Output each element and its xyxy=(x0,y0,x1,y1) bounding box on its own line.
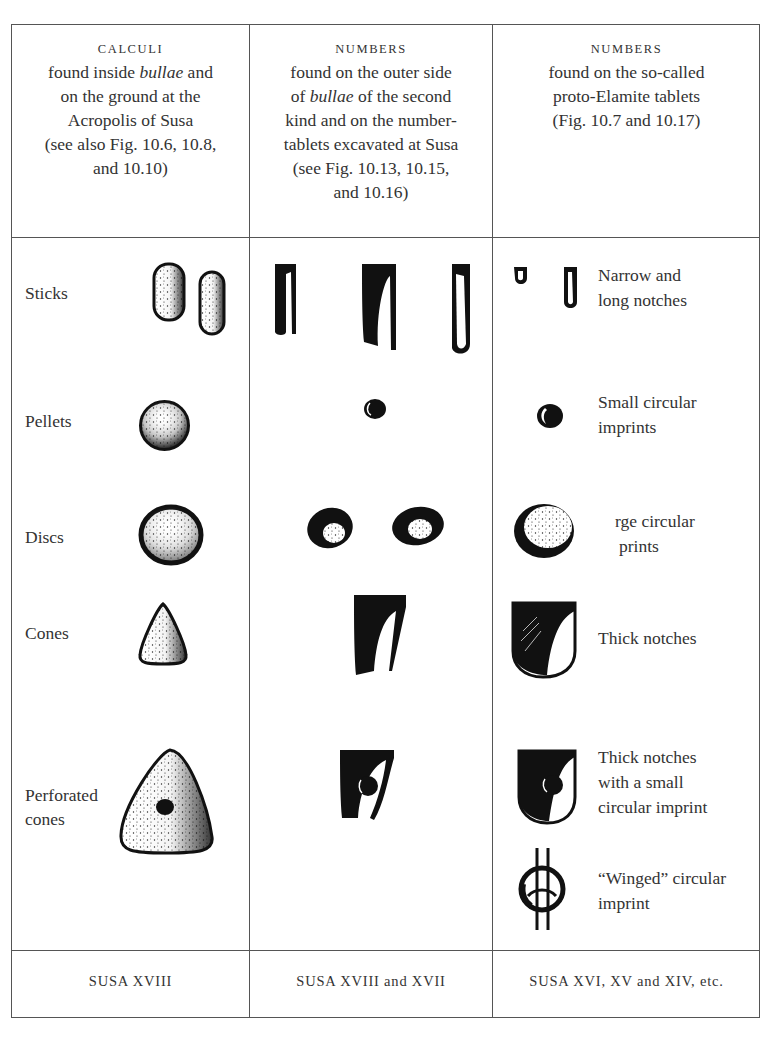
header-numbers-bullae-line-5: (see Fig. 10.13, 10.15, xyxy=(250,156,492,180)
column-divider-2 xyxy=(492,24,493,1018)
cone-token-icon xyxy=(137,601,189,667)
header-calculi-title: CALCULI xyxy=(12,38,249,60)
perforated-cone-number-icon xyxy=(338,748,395,822)
header-calculi: CALCULI found inside bullae and on the g… xyxy=(12,38,249,180)
header-divider xyxy=(11,237,760,238)
large-circular-imprint-icon xyxy=(513,503,575,559)
row-label-sticks: Sticks xyxy=(25,281,68,305)
header-numbers-proto-elamite: NUMBERS found on the so-called proto-Ela… xyxy=(493,38,760,132)
desc-thick-notches: Thick notches xyxy=(598,626,697,651)
thick-notch-icon xyxy=(511,601,577,679)
stick-tokens-icon xyxy=(152,262,228,338)
footer-calculi-period: SUSA XVIII xyxy=(12,973,249,990)
disc-token-icon xyxy=(138,504,204,566)
stick-numbers-icon xyxy=(272,262,477,358)
desc-thick-notches-with-circle: Thick notches with a small circular impr… xyxy=(598,745,707,820)
header-numbers-bullae-line-4: tablets excavated at Susa xyxy=(250,132,492,156)
desc-narrow-long-notches: Narrow and long notches xyxy=(598,263,687,313)
row-label-pellets: Pellets xyxy=(25,409,72,433)
row-label-perforated-cones: Perforated cones xyxy=(25,783,98,831)
thick-notch-with-circle-icon xyxy=(517,749,577,825)
header-calculi-line-5: and 10.10) xyxy=(12,156,249,180)
narrow-notches-icon xyxy=(513,266,579,310)
header-calculi-line-3: Acropolis of Susa xyxy=(12,108,249,132)
header-calculi-line-1: found inside bullae and xyxy=(12,60,249,84)
header-proto-elamite-line-3: (Fig. 10.7 and 10.17) xyxy=(493,108,760,132)
header-numbers-bullae-line-3: kind and on the number- xyxy=(250,108,492,132)
header-calculi-line-4: (see also Fig. 10.6, 10.8, xyxy=(12,132,249,156)
header-proto-elamite-line-1: found on the so-called xyxy=(493,60,760,84)
perforated-cone-token-icon xyxy=(118,747,216,857)
winged-circular-imprint-icon xyxy=(517,848,567,930)
header-numbers-bullae-title: NUMBERS xyxy=(250,38,492,60)
desc-winged-circular-imprint: “Winged” circular imprint xyxy=(598,866,726,916)
footer-numbers-bullae-period: SUSA XVIII and XVII xyxy=(250,973,492,990)
cone-number-icon xyxy=(352,593,407,676)
header-numbers-bullae-line-1: found on the outer side xyxy=(250,60,492,84)
row-label-discs: Discs xyxy=(25,525,64,549)
header-numbers-bullae: NUMBERS found on the outer side of bulla… xyxy=(250,38,492,204)
header-numbers-bullae-line-2: of bullae of the second xyxy=(250,84,492,108)
header-proto-elamite-line-2: proto-Elamite tablets xyxy=(493,84,760,108)
header-numbers-bullae-line-6: and 10.16) xyxy=(250,180,492,204)
footer-proto-elamite-period: SUSA XVI, XV and XIV, etc. xyxy=(493,973,760,990)
header-numbers-proto-elamite-title: NUMBERS xyxy=(493,38,760,60)
footer-divider xyxy=(11,950,760,951)
row-label-cones: Cones xyxy=(25,621,69,645)
pellet-token-icon xyxy=(138,399,191,452)
header-calculi-line-2: on the ground at the xyxy=(12,84,249,108)
desc-small-circular-imprints: Small circular imprints xyxy=(598,390,697,440)
small-circular-imprint-icon xyxy=(536,403,564,429)
disc-numbers-icon xyxy=(306,505,446,551)
desc-large-circular-imprints: rge circular prints xyxy=(615,509,695,559)
small-circle-number-icon xyxy=(363,398,387,420)
